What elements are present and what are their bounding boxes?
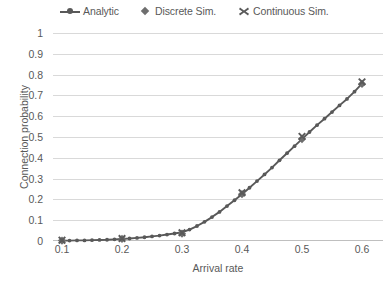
x-tick-label: 0.2 <box>115 243 130 255</box>
analytic-point <box>270 166 274 170</box>
y-tick-label: 0.2 <box>28 193 43 205</box>
analytic-point <box>203 220 207 224</box>
analytic-point <box>330 110 334 114</box>
x-tick-label: 0.1 <box>55 243 70 255</box>
legend-label-continuous-sim: Continuous Sim. <box>253 5 329 17</box>
analytic-point <box>165 233 169 237</box>
analytic-point <box>278 158 282 162</box>
analytic-point <box>135 236 139 240</box>
analytic-point <box>353 90 357 94</box>
analytic-point <box>113 237 117 241</box>
analytic-point <box>315 123 319 127</box>
y-tick-label: 0.6 <box>28 110 43 122</box>
analytic-point <box>338 103 342 107</box>
analytic-point <box>150 235 154 239</box>
analytic-point <box>173 232 177 236</box>
y-tick-label: 0.9 <box>28 48 43 60</box>
legend-item-continuous-sim: Continuous Sim. <box>238 5 329 17</box>
y-tick-label: 0.8 <box>28 69 43 81</box>
analytic-point <box>218 210 222 214</box>
analytic-point <box>195 224 199 228</box>
y-tick-label: 0.3 <box>28 173 43 185</box>
analytic-point <box>293 144 297 148</box>
line-series-icon <box>60 6 80 17</box>
analytic-point <box>255 179 259 183</box>
legend-label-analytic: Analytic <box>83 5 119 17</box>
y-tick-label: 0.5 <box>28 131 43 143</box>
chart-container: Analytic Discrete Sim. Continuous Sim. 0… <box>0 0 388 290</box>
analytic-point <box>345 97 349 101</box>
analytic-point <box>75 238 79 242</box>
diamond-marker-icon <box>141 6 152 17</box>
analytic-point <box>285 151 289 155</box>
analytic-point <box>98 238 102 242</box>
x-tick-label: 0.6 <box>355 243 370 255</box>
y-axis-title: Connection probability <box>18 49 30 225</box>
analytic-point <box>68 239 72 243</box>
analytic-point <box>83 238 87 242</box>
y-tick-label: 0.1 <box>28 214 43 226</box>
x-tick-label: 0.4 <box>235 243 250 255</box>
analytic-point <box>248 186 252 190</box>
y-tick-label: 1 <box>37 27 43 39</box>
analytic-point <box>308 130 312 134</box>
analytic-point <box>263 173 267 177</box>
y-tick-label: 0.4 <box>28 152 43 164</box>
analytic-point <box>188 228 192 232</box>
analytic-point <box>225 204 229 208</box>
plot-area <box>53 33 383 241</box>
analytic-point <box>90 238 94 242</box>
analytic-point <box>128 237 132 241</box>
analytic-point <box>233 198 237 202</box>
series-layer <box>53 33 383 241</box>
x-axis-ticks: 0.10.20.30.40.50.6 <box>53 243 383 259</box>
x-tick-label: 0.3 <box>175 243 190 255</box>
legend-item-discrete-sim: Discrete Sim. <box>141 5 216 17</box>
analytic-point <box>210 215 214 219</box>
analytic-point <box>105 238 109 242</box>
x-tick-label: 0.5 <box>295 243 310 255</box>
legend-item-analytic: Analytic <box>60 5 119 17</box>
cross-marker-icon <box>238 6 250 17</box>
x-axis-title: Arrival rate <box>53 262 383 274</box>
analytic-point <box>158 234 162 238</box>
y-tick-label: 0 <box>37 235 43 247</box>
analytic-point <box>143 235 147 239</box>
legend-label-discrete-sim: Discrete Sim. <box>155 5 216 17</box>
y-tick-label: 0.7 <box>28 89 43 101</box>
y-axis-title-wrapper: Connection probability <box>2 33 18 241</box>
analytic-point <box>323 117 327 121</box>
chart-legend: Analytic Discrete Sim. Continuous Sim. <box>60 0 388 22</box>
